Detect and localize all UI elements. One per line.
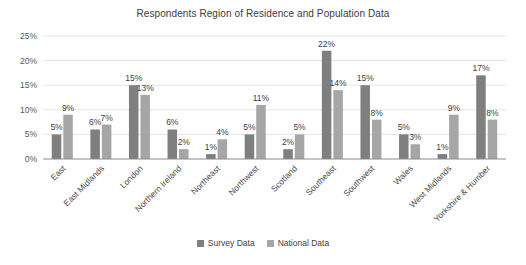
bar-survey-data	[360, 85, 370, 159]
legend-label-national-data: National Data	[278, 238, 330, 248]
bar-value-label: 13%	[137, 83, 154, 93]
bar-survey-data	[206, 154, 216, 159]
bar-survey-data	[476, 75, 486, 159]
bar-survey-data	[168, 129, 178, 159]
x-category-label: Southwest	[341, 163, 377, 199]
bar-national-data	[256, 105, 266, 159]
y-tick-label: 5%	[25, 129, 38, 139]
bar-national-data	[179, 149, 189, 159]
bar-value-label: 15%	[125, 73, 142, 83]
bar-value-label: 3%	[409, 132, 422, 142]
y-tick-label: 25%	[20, 31, 37, 41]
bar-survey-data	[438, 154, 448, 159]
x-category-label: Northeast	[189, 163, 223, 197]
bar-national-data	[102, 125, 112, 159]
bar-value-label: 9%	[62, 103, 75, 113]
y-tick-label: 20%	[20, 56, 37, 66]
bar-value-label: 9%	[448, 103, 461, 113]
bar-national-data	[411, 144, 421, 159]
x-category-label: Northwest	[226, 163, 261, 198]
x-category-label: Scotland	[269, 163, 300, 194]
bar-national-data	[63, 115, 73, 159]
bar-value-label: 4%	[216, 127, 229, 137]
bar-value-label: 8%	[486, 108, 499, 118]
bar-national-data	[372, 120, 382, 159]
bar-survey-data	[283, 149, 293, 159]
bar-national-data	[333, 90, 343, 159]
bar-national-data	[488, 120, 498, 159]
bar-value-label: 15%	[357, 73, 374, 83]
bar-value-label: 17%	[472, 63, 489, 73]
bar-survey-data	[52, 134, 62, 159]
x-category-label: Southeast	[304, 163, 339, 198]
x-category-label: East	[49, 163, 69, 183]
bar-value-label: 22%	[318, 39, 335, 49]
bar-value-label: 1%	[436, 142, 449, 152]
bar-value-label: 7%	[100, 113, 113, 123]
bar-survey-data	[90, 129, 100, 159]
legend-swatch-survey-data	[197, 240, 204, 247]
y-tick-label: 0%	[25, 154, 38, 164]
bar-value-label: 8%	[371, 108, 384, 118]
bar-value-label: 5%	[293, 122, 306, 132]
bar-survey-data	[322, 51, 332, 159]
bar-value-label: 6%	[166, 117, 179, 127]
bar-survey-data	[245, 134, 255, 159]
plot-area: 0%5%10%15%20%25%5%9%East6%7%East Midland…	[0, 0, 526, 232]
bar-survey-data	[129, 85, 139, 159]
bar-chart: Respondents Region of Residence and Popu…	[0, 0, 526, 265]
x-category-label: London	[118, 163, 145, 190]
y-tick-label: 10%	[20, 105, 37, 115]
bar-national-data	[140, 95, 150, 159]
bar-value-label: 5%	[398, 122, 411, 132]
bar-value-label: 14%	[330, 78, 347, 88]
x-category-label: Wales	[391, 163, 415, 187]
bar-value-label: 5%	[50, 122, 63, 132]
bar-national-data	[295, 134, 305, 159]
legend-item-national-data: National Data	[267, 238, 330, 248]
legend-swatch-national-data	[267, 240, 274, 247]
legend-label-survey-data: Survey Data	[208, 238, 255, 248]
legend: Survey Data National Data	[0, 238, 526, 248]
bar-value-label: 1%	[205, 142, 218, 152]
bar-national-data	[218, 139, 228, 159]
y-tick-label: 15%	[20, 80, 37, 90]
bar-survey-data	[399, 134, 409, 159]
x-category-label: East Midlands	[61, 163, 106, 208]
bar-national-data	[449, 115, 459, 159]
bar-value-label: 11%	[253, 93, 270, 103]
bar-value-label: 5%	[243, 122, 256, 132]
bar-value-label: 2%	[282, 137, 295, 147]
bar-value-label: 2%	[178, 137, 191, 147]
legend-item-survey-data: Survey Data	[197, 238, 255, 248]
